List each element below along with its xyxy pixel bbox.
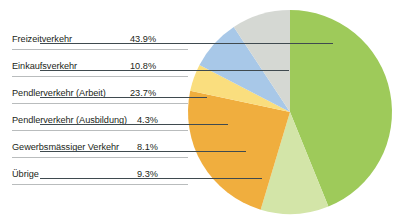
pie-slice-group: [188, 10, 392, 214]
chart-page: Freizeitverkehr 43.9% Einkaufsverkehr 10…: [0, 0, 410, 223]
pie-chart: [0, 0, 410, 223]
